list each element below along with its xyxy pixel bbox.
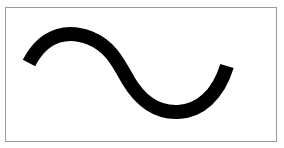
sine-wave-icon — [29, 34, 227, 112]
sine-wave-graphic — [0, 0, 284, 148]
